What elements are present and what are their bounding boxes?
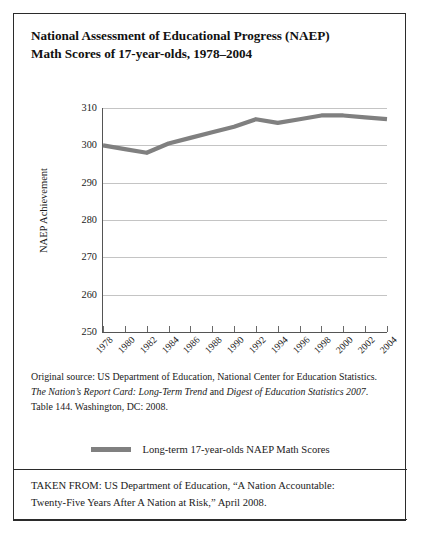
data-series-line — [103, 108, 387, 332]
source-conjunction: and — [207, 386, 226, 397]
x-tick-label-1996: 1996 — [290, 334, 311, 355]
taken-from-line-1: TAKEN FROM: US Department of Education, … — [31, 478, 393, 495]
figure-title: National Assessment of Educational Progr… — [31, 27, 391, 63]
source-note: Original source: US Department of Educat… — [31, 369, 393, 414]
source-note-line-1: Original source: US Department of Educat… — [31, 369, 393, 384]
y-tick-label-290: 290 — [82, 177, 97, 188]
legend-divider — [14, 469, 407, 470]
x-tick-label-1992: 1992 — [246, 334, 267, 355]
bottom-divider — [14, 519, 407, 520]
taken-from-line-2: Twenty-Five Years After A Nation at Risk… — [31, 495, 393, 512]
figure-title-line-2: Math Scores of 17-year-olds, 1978–2004 — [31, 45, 391, 63]
x-tick-label-2000: 2000 — [334, 334, 355, 355]
figure-title-line-1: National Assessment of Educational Progr… — [31, 27, 391, 45]
source-publication-2: Digest of Education Statistics 2007 — [226, 386, 365, 397]
y-tick-label-300: 300 — [82, 140, 97, 151]
x-tick-label-1984: 1984 — [159, 334, 180, 355]
y-tick-label-270: 270 — [82, 252, 97, 263]
source-note-line-3: Table 144. Washington, DC: 2008. — [31, 399, 393, 414]
x-tick-label-2004: 2004 — [377, 334, 398, 355]
source-period: . — [366, 386, 368, 397]
source-note-line-2: The Nation’s Report Card: Long-Term Tren… — [31, 384, 393, 399]
x-tick-2004 — [387, 326, 388, 332]
x-tick-label-1986: 1986 — [181, 334, 202, 355]
legend-color-swatch — [91, 447, 131, 452]
figure-frame: National Assessment of Educational Progr… — [13, 13, 406, 521]
chart-legend: Long-term 17-year-olds NAEP Math Scores — [14, 444, 407, 455]
plot-box: 250260270280290300310 197819801982198419… — [102, 108, 387, 333]
series-line-Long-term 17-year-olds NAEP Math Scores — [103, 115, 387, 152]
source-publication-1: The Nation’s Report Card: Long-Term Tren… — [31, 386, 207, 397]
taken-from-note: TAKEN FROM: US Department of Education, … — [31, 478, 393, 511]
x-tick-label-1994: 1994 — [268, 334, 289, 355]
y-tick-label-260: 260 — [82, 289, 97, 300]
legend-label: Long-term 17-year-olds NAEP Math Scores — [142, 444, 329, 455]
x-tick-label-1990: 1990 — [224, 334, 245, 355]
y-tick-label-310: 310 — [82, 102, 97, 113]
y-tick-label-280: 280 — [82, 214, 97, 225]
x-tick-label-1988: 1988 — [203, 334, 224, 355]
y-axis-title: NAEP Achievement — [38, 136, 49, 286]
x-tick-label-2002: 2002 — [355, 334, 376, 355]
x-tick-label-1980: 1980 — [115, 334, 136, 355]
chart-area: NAEP Achievement 250260270280290300310 1… — [14, 87, 407, 367]
y-tick-label-250: 250 — [82, 326, 97, 337]
x-tick-label-1982: 1982 — [137, 334, 158, 355]
x-tick-label-1998: 1998 — [312, 334, 333, 355]
